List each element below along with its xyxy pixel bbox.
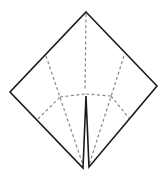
left-horizontal-crease [60, 94, 85, 97]
origami-diagram [0, 0, 167, 178]
center-vertical-crease [85, 14, 86, 90]
left-lower-crease [38, 97, 60, 119]
right-horizontal-crease [86, 94, 111, 96]
paper-outline [10, 12, 157, 168]
right-lower-crease [111, 96, 129, 118]
right-diagonal-crease [89, 56, 124, 165]
